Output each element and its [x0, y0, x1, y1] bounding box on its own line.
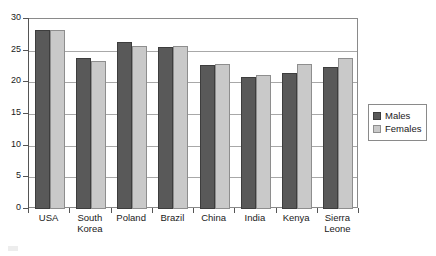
y-axis-tick [23, 81, 28, 82]
bar-males [200, 65, 215, 209]
bar-females [173, 46, 188, 209]
x-axis-tick-label: China [193, 212, 234, 223]
x-axis-tick-label: Kenya [276, 212, 317, 223]
legend-label-females: Females [385, 124, 421, 134]
legend-item-males: Males [373, 110, 421, 122]
bar-males [35, 30, 50, 209]
y-axis-tick-label: 30 [0, 13, 21, 22]
bar-females [256, 75, 271, 209]
page-artifact-mark [8, 246, 18, 251]
plot-area [28, 18, 358, 208]
y-axis-tick-label: 5 [0, 171, 21, 180]
bar-females [50, 30, 65, 209]
bar-males [158, 47, 173, 209]
legend-swatch-males-icon [373, 112, 381, 120]
bar-females [338, 58, 353, 209]
x-axis-tick [358, 208, 359, 213]
legend-item-females: Females [373, 123, 421, 135]
y-axis-tick-label: 20 [0, 76, 21, 85]
bar-females [297, 64, 312, 209]
bar-males [76, 58, 91, 209]
bar-females [215, 64, 230, 209]
x-axis-tick-label: Poland [111, 212, 152, 223]
y-axis-tick [23, 145, 28, 146]
y-axis-tick-label: 10 [0, 140, 21, 149]
x-axis-tick-label: USA [28, 212, 69, 223]
y-axis-tick-label: 25 [0, 45, 21, 54]
x-axis-tick-label: Sierra Leone [317, 212, 358, 234]
bar-females [132, 46, 147, 209]
y-axis-tick-label: 15 [0, 108, 21, 117]
y-axis-tick [23, 18, 28, 19]
bar-males [241, 77, 256, 209]
y-axis-tick-label: 0 [0, 203, 21, 212]
legend-label-males: Males [385, 111, 410, 121]
bar-chart: 051015202530 USASouth KoreaPolandBrazilC… [0, 0, 436, 256]
bar-males [117, 42, 132, 209]
y-axis-tick [23, 113, 28, 114]
y-axis-line [28, 18, 29, 208]
x-axis-tick-label: South Korea [69, 212, 110, 234]
legend-swatch-females-icon [373, 125, 381, 133]
bar-females [91, 61, 106, 209]
y-axis-tick [23, 50, 28, 51]
gridline [29, 51, 357, 52]
x-axis-tick-label: India [234, 212, 275, 223]
bar-males [282, 73, 297, 209]
chart-legend: Males Females [368, 104, 427, 141]
x-axis-tick-label: Brazil [152, 212, 193, 223]
y-axis-tick [23, 176, 28, 177]
bar-males [323, 67, 338, 209]
